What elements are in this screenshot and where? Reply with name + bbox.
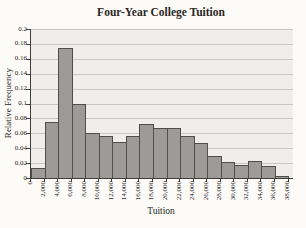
bar [58, 48, 73, 178]
bar [194, 143, 209, 178]
y-tick-label: 0.08 [1, 114, 27, 123]
y-tick-mark [26, 133, 30, 134]
bar [234, 165, 249, 178]
y-tick-mark [26, 89, 30, 90]
y-tick-mark [26, 29, 30, 30]
bar [72, 104, 87, 179]
y-tick-mark [26, 59, 30, 60]
bar [167, 128, 182, 178]
bar [207, 156, 222, 178]
y-tick-label: 0.1 [1, 99, 27, 108]
y-tick-label: 0 [1, 174, 27, 183]
y-tick-label: 0.04 [1, 144, 27, 153]
plot-area [30, 29, 293, 179]
bar [248, 161, 263, 178]
bar [31, 168, 46, 178]
y-tick-mark [26, 148, 30, 149]
y-tick-mark [26, 163, 30, 164]
y-tick-label: 0.02 [1, 159, 27, 168]
gridline [31, 29, 293, 30]
bar [85, 133, 100, 178]
chart-title: Four-Year College Tuition [30, 6, 292, 18]
y-tick-label: 0.18 [1, 39, 27, 48]
histogram-figure: Four-Year College Tuition Relative Frequ… [0, 0, 306, 228]
bar [112, 142, 127, 178]
y-tick-label: 0.16 [1, 54, 27, 63]
y-tick-mark [26, 104, 30, 105]
y-tick-mark [26, 74, 30, 75]
bar [126, 136, 141, 178]
bar [99, 136, 114, 178]
bar [261, 166, 276, 178]
bar [180, 136, 195, 178]
x-axis-label: Tuition [30, 206, 292, 216]
y-tick-mark [26, 118, 30, 119]
bar [45, 122, 60, 178]
bar [139, 124, 154, 178]
y-tick-label: 0.06 [1, 129, 27, 138]
y-tick-label: 0.12 [1, 84, 27, 93]
y-tick-label: 0.2 [1, 25, 27, 34]
gridline [31, 44, 293, 45]
y-tick-label: 0.14 [1, 69, 27, 78]
bar [153, 128, 168, 178]
bar [221, 162, 236, 178]
y-tick-mark [26, 44, 30, 45]
